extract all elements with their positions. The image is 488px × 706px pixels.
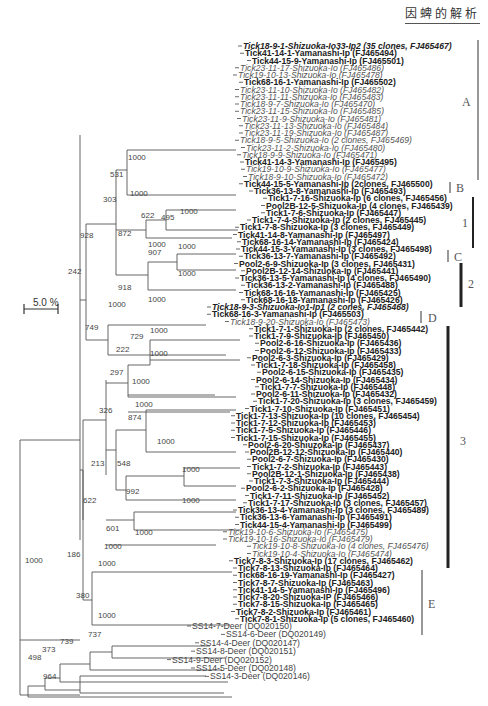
bootstrap-value: 964: [43, 672, 57, 681]
bootstrap-value: 548: [117, 459, 131, 468]
bootstrap-value: 303: [103, 195, 117, 204]
bootstrap-value: 872: [118, 229, 132, 238]
bootstrap-value: 907: [148, 248, 162, 257]
scale-bar-label: 5.0 %: [33, 297, 59, 308]
phylogenetic-tree: Tick18-9-1-Shizuoka-Io33-Ip2 (35 clones,…: [0, 0, 488, 706]
bootstrap-value: 1000: [148, 295, 166, 304]
bootstrap-value: 1000: [180, 207, 198, 216]
bootstrap-values: 1000531100030349510006228721000100090792…: [25, 153, 200, 681]
bootstrap-value: 1000: [150, 326, 168, 335]
bootstrap-value: 737: [88, 630, 102, 639]
clade-label: C: [454, 250, 462, 264]
leaf-label: SS14-3-Deer (DQ020146): [210, 671, 310, 681]
bootstrap-value: 186: [67, 550, 81, 559]
bootstrap-value: 1000: [157, 437, 175, 446]
bootstrap-value: 242: [68, 267, 82, 276]
bootstrap-value: 531: [110, 170, 124, 179]
bootstrap-value: 1000: [135, 528, 153, 537]
bootstrap-value: 601: [106, 524, 120, 533]
bootstrap-value: 1000: [178, 269, 196, 278]
bootstrap-value: 1000: [150, 349, 168, 358]
bootstrap-value: 622: [141, 211, 155, 220]
bootstrap-value: 739: [60, 637, 74, 646]
bootstrap-value: 918: [118, 283, 132, 292]
clade-label: D: [428, 311, 437, 325]
bootstrap-value: 1000: [128, 153, 146, 162]
bootstrap-value: 498: [28, 653, 42, 662]
bootstrap-value: 326: [99, 406, 113, 415]
clade-label: 1: [462, 216, 468, 230]
bootstrap-value: 1000: [98, 559, 116, 568]
bootstrap-value: 380: [76, 591, 90, 600]
bootstrap-value: 874: [128, 413, 142, 422]
bootstrap-value: 1000: [108, 300, 126, 309]
bootstrap-value: 928: [80, 231, 94, 240]
bootstrap-value: 373: [42, 645, 56, 654]
bootstrap-value: 1000: [135, 400, 153, 409]
bootstrap-value: 1000: [104, 542, 122, 551]
bootstrap-value: 729: [130, 332, 144, 341]
clade-label: 2: [468, 277, 474, 291]
clade-label: 3: [460, 434, 466, 448]
bootstrap-value: 1000: [182, 496, 200, 505]
clade-brackets: AB1C2D3E: [421, 40, 478, 635]
bootstrap-value: 1000: [182, 465, 200, 474]
bootstrap-value: 622: [83, 496, 97, 505]
bootstrap-value: 222: [116, 345, 130, 354]
bootstrap-value: 1000: [178, 242, 196, 251]
bootstrap-value: 1000: [132, 377, 150, 386]
bootstrap-value: 1000: [98, 611, 116, 620]
tree-branches: [20, 46, 267, 697]
clade-label: A: [462, 95, 471, 109]
clade-label: E: [428, 597, 435, 611]
scale-bar: 5.0 %: [24, 297, 59, 314]
bootstrap-value: 1000: [130, 189, 148, 198]
bootstrap-value: 213: [91, 459, 105, 468]
clade-label: B: [456, 181, 464, 195]
bootstrap-value: 495: [161, 213, 175, 222]
bootstrap-value: 992: [126, 487, 140, 496]
bootstrap-value: 749: [85, 323, 99, 332]
bootstrap-value: 1000: [25, 556, 43, 565]
tree-leaf-labels: Tick18-9-1-Shizuoka-Io33-Ip2 (35 clones,…: [172, 41, 453, 681]
bootstrap-value: 297: [110, 368, 124, 377]
